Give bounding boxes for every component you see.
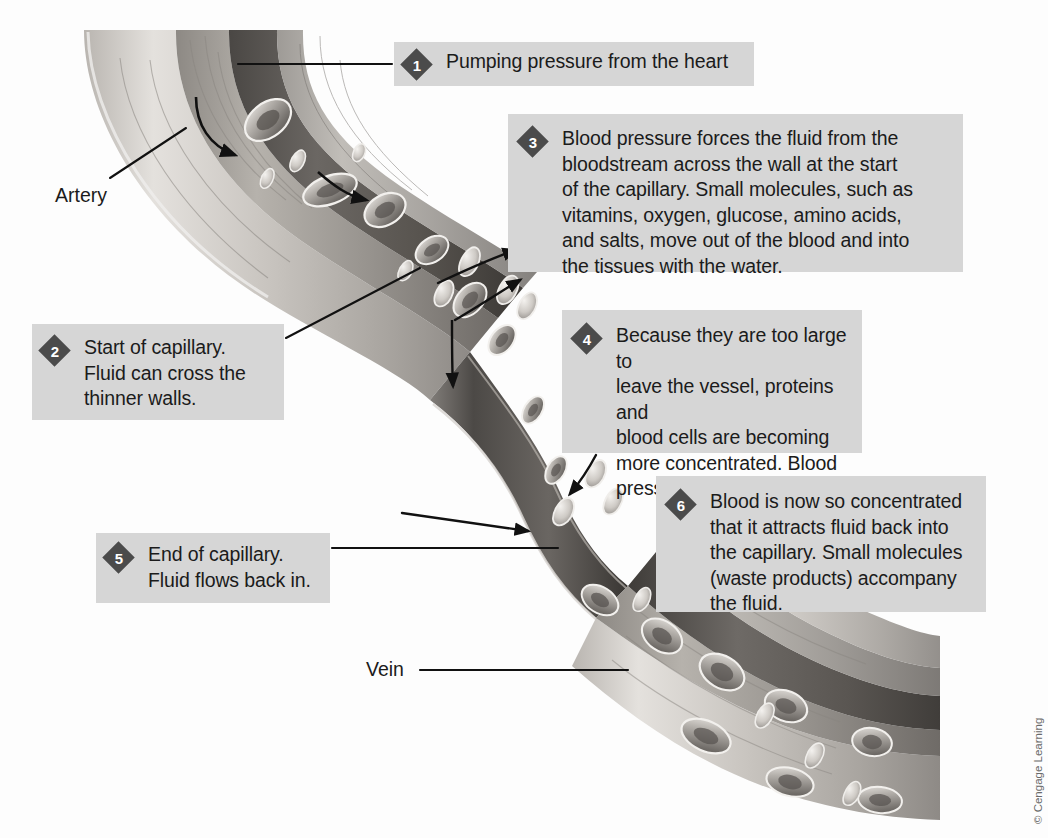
callout-6-text: Blood is now so concentrated that it att… (710, 489, 962, 617)
badge-4-number: 4 (572, 324, 602, 354)
callout-2-text: Start of capillary. Fluid can cross the … (84, 335, 246, 412)
badge-2-number: 2 (40, 336, 70, 366)
figure-canvas: 1 Pumping pressure from the heart 3 Bloo… (0, 0, 1048, 838)
badge-5-number: 5 (104, 543, 134, 573)
badge-1-diamond-icon: 1 (402, 50, 432, 80)
badge-3-number: 3 (518, 127, 548, 157)
badge-2-diamond-icon: 2 (40, 336, 70, 366)
callout-5-text: End of capillary. Fluid flows back in. (148, 542, 311, 593)
callout-1: 1 Pumping pressure from the heart (394, 42, 754, 86)
callout-6: 6 Blood is now so concentrated that it a… (656, 476, 986, 612)
badge-6-number: 6 (666, 490, 696, 520)
copyright-text: © Cengage Learning (1032, 718, 1044, 824)
callout-2: 2 Start of capillary. Fluid can cross th… (32, 324, 284, 420)
badge-3-diamond-icon: 3 (518, 127, 548, 157)
badge-5-diamond-icon: 5 (104, 543, 134, 573)
badge-1-number: 1 (402, 50, 432, 80)
callout-4: 4 Because they are too large to leave th… (562, 310, 862, 453)
callout-1-text: Pumping pressure from the heart (446, 49, 728, 75)
copyright-notice: © Cengage Learning (1032, 718, 1044, 824)
badge-4-diamond-icon: 4 (572, 324, 602, 354)
callout-3-text: Blood pressure forces the fluid from the… (562, 126, 913, 279)
callout-4-text: Because they are too large to leave the … (616, 323, 850, 502)
callout-5: 5 End of capillary. Fluid flows back in. (96, 533, 330, 603)
label-vein: Vein (366, 660, 404, 680)
badge-6-diamond-icon: 6 (666, 490, 696, 520)
callout-3: 3 Blood pressure forces the fluid from t… (508, 114, 963, 272)
label-artery: Artery (55, 186, 107, 206)
